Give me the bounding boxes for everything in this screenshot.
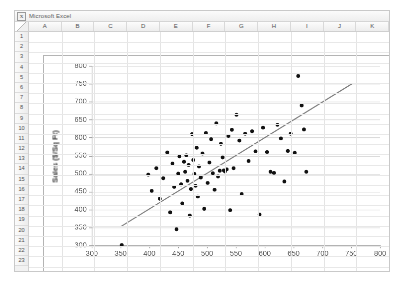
row-header-20[interactable]: 20 bbox=[15, 226, 28, 236]
grid-horizontal-line bbox=[29, 144, 389, 145]
grid-horizontal-line bbox=[29, 42, 389, 43]
row-header-16[interactable]: 16 bbox=[15, 185, 28, 195]
row-header-3[interactable]: 3 bbox=[15, 52, 28, 62]
grid-horizontal-line bbox=[29, 226, 389, 227]
row-header-22[interactable]: 22 bbox=[15, 246, 28, 256]
row-header-19[interactable]: 19 bbox=[15, 215, 28, 225]
grid-horizontal-line bbox=[29, 63, 389, 64]
column-header-d[interactable]: D bbox=[127, 22, 160, 31]
grid-horizontal-line bbox=[29, 195, 389, 196]
row-header-14[interactable]: 14 bbox=[15, 164, 28, 174]
column-header-e[interactable]: E bbox=[160, 22, 193, 31]
row-header-17[interactable]: 17 bbox=[15, 195, 28, 205]
row-header-5[interactable]: 5 bbox=[15, 73, 28, 83]
column-header-g[interactable]: G bbox=[225, 22, 258, 31]
spreadsheet-grid: 1234567891011121314151617181920212223 Sa… bbox=[15, 32, 389, 271]
row-header-10[interactable]: 10 bbox=[15, 124, 28, 134]
row-header-23[interactable]: 23 bbox=[15, 256, 28, 266]
excel-window: X Microsoft Excel ABCDEFGHIJK 1234567891… bbox=[14, 10, 390, 272]
grid-horizontal-line bbox=[29, 124, 389, 125]
excel-logo-icon: X bbox=[17, 12, 26, 21]
column-header-h[interactable]: H bbox=[258, 22, 291, 31]
grid-horizontal-line bbox=[29, 246, 389, 247]
grid-horizontal-line bbox=[29, 185, 389, 186]
window-title-bar: X Microsoft Excel bbox=[15, 11, 389, 22]
grid-horizontal-line bbox=[29, 154, 389, 155]
column-header-f[interactable]: F bbox=[193, 22, 226, 31]
grid-horizontal-line bbox=[29, 134, 389, 135]
column-header-row: ABCDEFGHIJK bbox=[15, 22, 389, 32]
row-header-6[interactable]: 6 bbox=[15, 83, 28, 93]
grid-horizontal-line bbox=[29, 114, 389, 115]
row-header-13[interactable]: 13 bbox=[15, 154, 28, 164]
app-title: Microsoft Excel bbox=[29, 13, 71, 19]
select-all-corner-button[interactable] bbox=[15, 22, 29, 31]
row-header-11[interactable]: 11 bbox=[15, 134, 28, 144]
sheet-cell-area[interactable]: Sales ($/Sq Ft) Estimated Sales ($/Sq Ft… bbox=[29, 32, 389, 271]
row-header-15[interactable]: 15 bbox=[15, 175, 28, 185]
grid-horizontal-line bbox=[29, 103, 389, 104]
grid-horizontal-line bbox=[29, 205, 389, 206]
grid-horizontal-line bbox=[29, 93, 389, 94]
grid-horizontal-line bbox=[29, 216, 389, 217]
x-axis-title: Estimated Sales ($/Sq Ft) bbox=[44, 270, 390, 272]
row-header-1[interactable]: 1 bbox=[15, 32, 28, 42]
row-header-12[interactable]: 12 bbox=[15, 144, 28, 154]
grid-horizontal-line bbox=[29, 165, 389, 166]
row-header-7[interactable]: 7 bbox=[15, 93, 28, 103]
row-header-column: 1234567891011121314151617181920212223 bbox=[15, 32, 29, 271]
column-header-j[interactable]: J bbox=[324, 22, 357, 31]
grid-horizontal-line bbox=[29, 52, 389, 53]
grid-horizontal-line bbox=[29, 83, 389, 84]
grid-vertical-line bbox=[389, 32, 390, 271]
column-header-a[interactable]: A bbox=[29, 22, 62, 31]
row-header-18[interactable]: 18 bbox=[15, 205, 28, 215]
grid-horizontal-line bbox=[29, 175, 389, 176]
column-header-k[interactable]: K bbox=[356, 22, 389, 31]
row-header-2[interactable]: 2 bbox=[15, 42, 28, 52]
grid-horizontal-line bbox=[29, 73, 389, 74]
column-header-i[interactable]: I bbox=[291, 22, 324, 31]
row-header-4[interactable]: 4 bbox=[15, 63, 28, 73]
column-header-b[interactable]: B bbox=[62, 22, 95, 31]
row-header-8[interactable]: 8 bbox=[15, 103, 28, 113]
row-header-9[interactable]: 9 bbox=[15, 114, 28, 124]
column-header-c[interactable]: C bbox=[94, 22, 127, 31]
row-header-21[interactable]: 21 bbox=[15, 236, 28, 246]
grid-horizontal-line bbox=[29, 236, 389, 237]
grid-horizontal-line bbox=[29, 267, 389, 268]
grid-horizontal-line bbox=[29, 256, 389, 257]
